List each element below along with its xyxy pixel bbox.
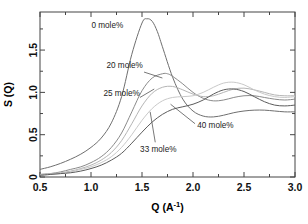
x-tick-label: 1.0 (84, 181, 99, 193)
x-tick-label: 3.0 (288, 181, 303, 193)
x-axis-title: Q (A-1) (151, 200, 183, 214)
chart-figure: 0.51.01.52.02.53.0 00.51.01.5 0 mole%20 … (0, 0, 308, 224)
y-tick-label: 1.0 (27, 85, 39, 100)
structure-factor-plot: 0.51.01.52.02.53.0 00.51.01.5 0 mole%20 … (0, 0, 308, 224)
series-label: 25 mole% (103, 89, 139, 98)
series-curve (40, 73, 295, 174)
svg-text:Q (A-1): Q (A-1) (151, 200, 183, 214)
x-tick-label: 0.5 (33, 181, 48, 193)
x-tick-label: 2.5 (237, 181, 252, 193)
y-axis-title: S (Q) (2, 82, 14, 107)
x-axis-tick-labels: 0.51.01.52.02.53.0 (33, 181, 303, 193)
series-label: 0 mole% (91, 21, 123, 30)
y-axis-tick-labels: 00.51.01.5 (27, 43, 39, 180)
x-tick-label: 1.5 (135, 181, 150, 193)
series-label: 40 mole% (197, 121, 233, 130)
series-label: 33 mole% (140, 145, 176, 154)
y-tick-label: 0.5 (27, 127, 39, 142)
series-curve (40, 89, 295, 175)
y-tick-label: 1.5 (27, 43, 39, 58)
series-label: 20 mole% (106, 61, 142, 70)
y-axis-ticks (40, 29, 295, 177)
y-tick-label: 0 (27, 174, 39, 180)
x-tick-label: 2.0 (186, 181, 201, 193)
series-curve (40, 86, 295, 174)
